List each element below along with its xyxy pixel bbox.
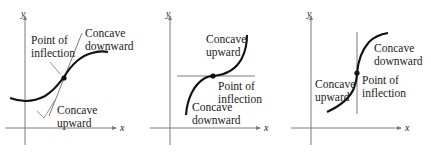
inflection-points-figure: y x Point of inflection Concave downward… — [0, 0, 431, 152]
panel-2: y x Concave upward Point of inflection C… — [150, 8, 269, 145]
panel-1: y x Point of inflection Concave downward… — [5, 8, 134, 145]
concave-downward-label: Concave downward — [85, 27, 134, 52]
inflection-point — [354, 70, 359, 75]
x-axis-label: x — [119, 122, 125, 133]
inflection-label: Point of inflection — [362, 74, 406, 99]
inflection-point — [210, 73, 215, 78]
x-axis-label: x — [404, 122, 410, 133]
inflection-leader-line — [50, 62, 60, 74]
y-axis-label: y — [20, 8, 26, 19]
x-axis-label: x — [263, 122, 269, 133]
panel-3: y x Concave downward Concave upward Poin… — [291, 8, 423, 145]
concave-downward-label: Concave downward — [374, 42, 423, 67]
concave-downward-label: Concave downward — [192, 101, 241, 126]
concave-upward-label: Concave upward — [57, 104, 100, 130]
y-axis-label: y — [165, 8, 171, 19]
inflection-label: Point of inflection — [31, 34, 75, 59]
y-axis-label: y — [306, 8, 312, 19]
inflection-point — [61, 75, 66, 80]
